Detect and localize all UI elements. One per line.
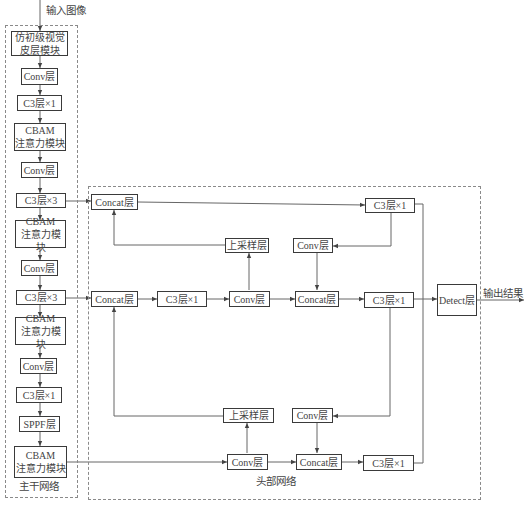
backbone-conv-3: Conv层: [21, 260, 58, 276]
head-concat-top: Concat层: [91, 194, 138, 210]
head-conv-lower: Conv层: [292, 408, 333, 423]
head-c3-mid-b: C3层×1: [364, 292, 414, 308]
head-region: [88, 186, 481, 500]
head-conv-bottom: Conv层: [227, 454, 268, 470]
backbone-cbam-4: CBAM 注意力模块: [14, 446, 67, 478]
backbone-c3-3: C3层×3: [16, 290, 66, 305]
head-c3-mid-a: C3层×1: [157, 291, 207, 307]
head-concat-mid: Concat层: [91, 291, 138, 307]
backbone-conv-4: Conv层: [20, 358, 57, 374]
head-c3-top: C3层×1: [365, 198, 415, 213]
output-label: 输出结果: [483, 285, 523, 300]
detect-layer: Detect层: [437, 284, 477, 316]
backbone-cbam-1: CBAM 注意力模块: [14, 123, 66, 151]
v1-cortex-module: 仿初级视觉 皮层模块: [11, 31, 68, 56]
backbone-sppf: SPPF层: [19, 416, 60, 432]
backbone-conv-1: Conv层: [21, 68, 58, 85]
head-upsample-lower: 上采样层: [223, 408, 274, 423]
backbone-cbam-2: CBAM 注意力模块: [15, 220, 66, 248]
head-conv-mid: Conv层: [229, 291, 270, 307]
head-concat-mid-b: Concat层: [295, 291, 339, 307]
head-title: 头部网络: [256, 473, 296, 488]
backbone-title: 主干网络: [19, 478, 59, 493]
head-c3-bottom: C3层×1: [363, 455, 414, 471]
backbone-c3-2: C3层×3: [16, 193, 66, 208]
backbone-c3-4: C3层×1: [16, 387, 62, 403]
head-upsample-upper: 上采样层: [225, 238, 269, 253]
head-concat-bottom: Concat层: [296, 454, 342, 470]
backbone-c3-1: C3层×1: [17, 95, 62, 111]
backbone-conv-2: Conv层: [21, 162, 58, 178]
input-label: 输入图像: [46, 2, 86, 17]
backbone-cbam-3: CBAM 注意力模块: [15, 317, 66, 345]
head-conv-upper: Conv层: [293, 238, 333, 253]
